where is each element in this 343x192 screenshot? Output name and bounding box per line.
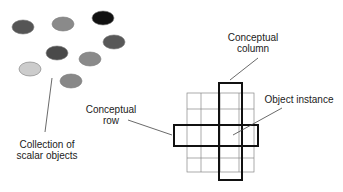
instance-label-text: Object instance xyxy=(259,94,339,105)
instance-label: Object instance xyxy=(259,94,339,105)
collection-label-line2: scalar objects xyxy=(2,150,92,161)
row-label-line2: row xyxy=(80,115,142,126)
scalar-dot xyxy=(46,46,68,60)
scalar-dot xyxy=(19,62,41,76)
collection-label-line1: Collection of xyxy=(2,139,92,150)
scalar-dot xyxy=(52,17,74,31)
column-label-line1: Conceptual xyxy=(222,32,284,43)
collection-label: Collection of scalar objects xyxy=(2,139,92,161)
column-leader-line xyxy=(230,58,258,80)
scalar-dot xyxy=(92,11,114,25)
scalar-dot xyxy=(103,35,125,49)
scalar-dot xyxy=(79,52,101,66)
scalar-dot xyxy=(60,74,82,88)
scalar-dot xyxy=(12,20,34,34)
table-grid xyxy=(187,93,254,172)
column-label: Conceptual column xyxy=(222,32,284,54)
scalar-objects xyxy=(12,11,125,88)
collection-leader-line xyxy=(45,78,52,132)
row-label-line1: Conceptual xyxy=(80,104,142,115)
row-label: Conceptual row xyxy=(80,104,142,126)
column-label-line2: column xyxy=(222,43,284,54)
